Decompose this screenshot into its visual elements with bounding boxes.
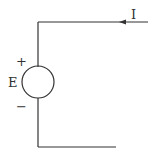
- source-label: E: [8, 75, 18, 90]
- plus-sign: +: [16, 54, 27, 69]
- minus-sign: −: [16, 99, 27, 114]
- current-label: I: [131, 7, 136, 22]
- current-arrow-icon: [119, 20, 126, 25]
- voltage-source: [22, 66, 54, 98]
- circuit-diagram: I E + −: [0, 0, 157, 155]
